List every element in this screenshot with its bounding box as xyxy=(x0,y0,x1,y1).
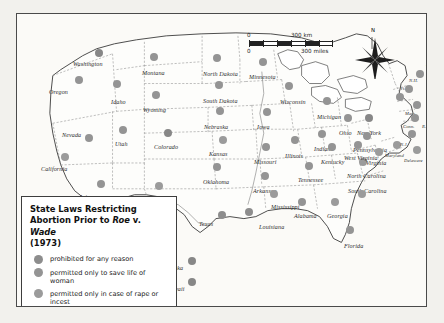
legend-title-line2-prefix: Abortion Prior to xyxy=(30,215,112,225)
legend-title-wade: Wade xyxy=(30,227,56,237)
legend-items: prohibited for any reasonpermitted only … xyxy=(30,255,168,307)
map-page: .coast{fill:#fdfdfb;stroke:#3a3a3a;strok… xyxy=(0,0,444,323)
legend-title-year: (1973) xyxy=(30,238,61,248)
compass-north-label: N xyxy=(371,27,375,33)
legend-title-line1: State Laws Restricting xyxy=(30,204,137,214)
scale-km-value: 300 km xyxy=(291,32,312,38)
scale-miles-zero: 0 xyxy=(247,48,251,54)
scale-bar: 0 300 km 0 300 miles xyxy=(239,32,357,58)
map-frame: .coast{fill:#fdfdfb;stroke:#3a3a3a;strok… xyxy=(16,13,427,307)
legend-label-2: permitted only in case of rape or incest xyxy=(50,289,168,306)
scale-km-zero: 0 xyxy=(247,32,251,38)
legend-title-roe: Roe xyxy=(112,215,129,225)
legend-item-2[interactable]: permitted only in case of rape or incest xyxy=(30,289,168,306)
legend-box: State Laws Restricting Abortion Prior to… xyxy=(21,196,177,307)
legend-label-0: prohibited for any reason xyxy=(50,255,133,264)
legend-label-1: permitted only to save life of woman xyxy=(50,268,168,285)
legend-title: State Laws Restricting Abortion Prior to… xyxy=(30,204,168,250)
legend-item-1[interactable]: permitted only to save life of woman xyxy=(30,268,168,285)
scale-miles-value: 300 miles xyxy=(301,48,328,54)
legend-swatch-2 xyxy=(34,289,43,298)
scale-bar-ticks xyxy=(249,40,333,47)
legend-swatch-0 xyxy=(34,255,43,264)
state-label-maine: Maine xyxy=(426,62,427,67)
compass-rose-icon xyxy=(355,27,401,79)
legend-swatch-1 xyxy=(34,268,43,277)
compass-rose: N xyxy=(355,27,401,79)
legend-title-v: v. xyxy=(130,215,141,225)
legend-item-0[interactable]: prohibited for any reason xyxy=(30,255,168,264)
